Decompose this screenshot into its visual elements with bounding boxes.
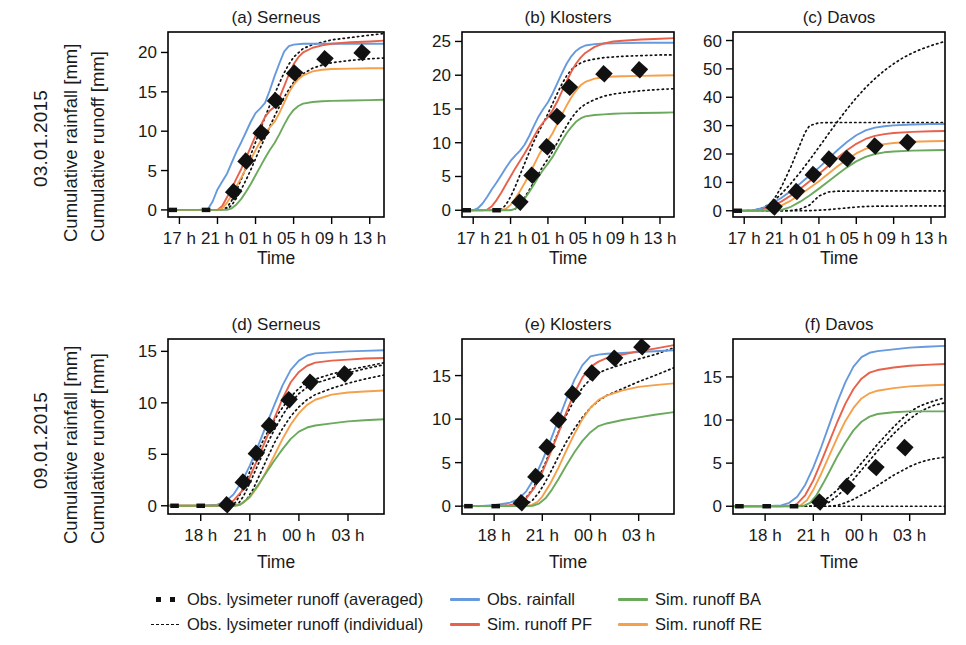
row-date-label-bottom: 09.01.2015 xyxy=(30,391,52,488)
y-axis-label-runoff-top: Cumulative runoff [mm] xyxy=(87,51,109,242)
marker-point xyxy=(550,411,568,429)
x-tick-label: 05 h xyxy=(840,229,873,248)
legend-item: Obs. rainfall xyxy=(450,590,618,609)
x-tick-label: 21 h xyxy=(797,526,830,545)
plot-frame-a xyxy=(168,32,384,217)
legend-solid-line-icon xyxy=(618,623,648,626)
legend-key-marker-squares-icon xyxy=(150,597,180,602)
y-tick-label: 15 xyxy=(138,342,157,361)
x-tick-label: 01 h xyxy=(239,229,272,248)
y-tick-label: 25 xyxy=(432,32,451,51)
x-tick-label: 03 h xyxy=(622,526,655,545)
y-tick-label: 5 xyxy=(148,162,157,181)
y-tick-label: 40 xyxy=(703,88,722,107)
marker-point xyxy=(196,504,205,508)
plot-d: 05101518 h21 h00 h03 h xyxy=(110,331,394,564)
marker-point xyxy=(538,438,556,456)
series-sim-runoff-pf-e xyxy=(462,345,674,506)
markers-averaged-b xyxy=(462,61,648,212)
x-tick-label: 17 h xyxy=(728,229,761,248)
legend-item: Obs. lysimeter runoff (individual) xyxy=(150,615,450,634)
legend-item: Obs. lysimeter runoff (averaged) xyxy=(150,590,450,609)
marker-point xyxy=(583,364,601,382)
y-tick-label: 15 xyxy=(138,83,157,102)
marker-point xyxy=(491,504,500,508)
series-sim-runoff-re-b xyxy=(462,75,674,210)
markers-averaged-d xyxy=(170,365,353,513)
x-tick-label: 13 h xyxy=(353,229,386,248)
x-tick-label: 01 h xyxy=(531,229,564,248)
marker-point xyxy=(202,208,211,212)
y-tick-label: 10 xyxy=(138,394,157,413)
y-tick-label: 5 xyxy=(442,167,451,186)
legend-marker-square-icon xyxy=(170,597,175,602)
y-tick-label: 5 xyxy=(148,445,157,464)
legend-row: Obs. lysimeter runoff (averaged)Obs. rai… xyxy=(150,590,950,609)
y-tick-label: 10 xyxy=(703,411,722,430)
series-individual-e-2 xyxy=(462,368,674,506)
y-tick-label: 0 xyxy=(442,497,451,516)
series-individual-c-1 xyxy=(733,41,945,210)
marker-point xyxy=(735,504,744,508)
y-tick-label: 0 xyxy=(148,201,157,220)
x-tick-label: 17 h xyxy=(163,229,196,248)
x-tick-label: 00 h xyxy=(282,526,315,545)
marker-point xyxy=(790,504,799,508)
y-tick-label: 0 xyxy=(442,201,451,220)
legend-item: Sim. runoff RE xyxy=(618,615,818,634)
y-tick-label: 0 xyxy=(148,497,157,516)
y-tick-label: 10 xyxy=(432,410,451,429)
legend-solid-line-icon xyxy=(618,598,648,601)
series-sim-runoff-ba-a xyxy=(168,100,384,210)
plot-frame-e xyxy=(462,339,674,514)
markers-averaged-e xyxy=(464,338,651,511)
series-sim-runoff-pf-a xyxy=(168,41,384,210)
marker-point xyxy=(896,439,914,457)
series-individual-a-1 xyxy=(168,34,384,210)
x-tick-label: 00 h xyxy=(845,526,878,545)
marker-point xyxy=(168,208,177,212)
series-sim-runoff-pf-d xyxy=(168,358,384,506)
figure-legend: Obs. lysimeter runoff (averaged)Obs. rai… xyxy=(150,590,950,640)
marker-point xyxy=(765,198,783,216)
y-tick-label: 5 xyxy=(442,454,451,473)
series-individual-b-2 xyxy=(462,89,674,211)
series-obs-rainfall-c xyxy=(733,124,945,211)
y-tick-label: 15 xyxy=(703,368,722,387)
marker-point xyxy=(762,504,771,508)
series-sim-runoff-ba-d xyxy=(168,419,384,505)
marker-point xyxy=(492,208,501,212)
x-tick-label: 21 h xyxy=(765,229,798,248)
markers-averaged-c xyxy=(733,134,916,216)
marker-point xyxy=(462,208,471,212)
plot-f: 05101518 h21 h00 h03 h xyxy=(675,331,955,564)
y-tick-label: 0 xyxy=(713,202,722,221)
series-individual-c-2 xyxy=(733,123,945,211)
x-tick-label: 09 h xyxy=(315,229,348,248)
series-sim-runoff-re-e xyxy=(462,383,674,506)
plot-b: 051015202517 h21 h01 h05 h09 h13 h xyxy=(404,24,684,267)
marker-point xyxy=(464,504,473,508)
y-tick-label: 20 xyxy=(703,145,722,164)
x-tick-label: 03 h xyxy=(331,526,364,545)
y-tick-label: 0 xyxy=(713,497,722,516)
x-tick-label: 01 h xyxy=(802,229,835,248)
y-tick-label: 15 xyxy=(432,367,451,386)
legend-solid-line-icon xyxy=(450,623,480,626)
series-individual-f-3 xyxy=(733,457,945,506)
series-sim-runoff-ba-e xyxy=(462,412,674,506)
marker-point xyxy=(170,504,179,508)
legend-item: Sim. runoff PF xyxy=(450,615,618,634)
y-tick-label: 20 xyxy=(138,43,157,62)
x-tick-label: 18 h xyxy=(478,526,511,545)
x-tick-label: 03 h xyxy=(893,526,926,545)
legend-marker-square-icon xyxy=(156,597,161,602)
marker-point xyxy=(336,365,354,383)
series-obs-rainfall-e xyxy=(462,350,674,506)
legend-key-solid-line-icon xyxy=(450,623,480,626)
series-individual-e-1 xyxy=(462,348,674,506)
y-tick-label: 10 xyxy=(138,122,157,141)
marker-point xyxy=(280,391,298,409)
legend-item: Sim. runoff BA xyxy=(618,590,818,609)
series-individual-d-2 xyxy=(168,375,384,506)
